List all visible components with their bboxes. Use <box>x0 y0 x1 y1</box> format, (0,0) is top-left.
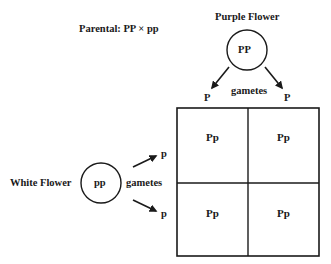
punnett-cell-r1c1: Pp <box>177 108 248 183</box>
punnett-cell-r2c1: Pp <box>177 183 248 256</box>
punnett-cell-r1c2: Pp <box>248 108 319 183</box>
white-gamete-1: p <box>161 149 167 160</box>
parental-cross-title: Parental: PP × pp <box>79 24 159 35</box>
punnett-cell-r2c2: Pp <box>248 183 319 256</box>
white-flower-genotype: pp <box>94 178 106 189</box>
arrow-white-up <box>133 156 156 167</box>
arrow-white-down <box>133 200 156 211</box>
purple-gamete-2: P <box>284 93 290 104</box>
purple-gametes-label: gametes <box>231 86 267 97</box>
purple-gamete-1: P <box>204 93 210 104</box>
purple-flower-genotype: PP <box>238 45 251 56</box>
white-flower-label: White Flower <box>10 178 72 189</box>
purple-flower-label: Purple Flower <box>215 12 279 23</box>
arrow-purple-right <box>265 67 282 88</box>
white-gametes-label: gametes <box>126 178 162 189</box>
white-gamete-2: p <box>161 209 167 220</box>
arrow-purple-left <box>212 67 229 88</box>
